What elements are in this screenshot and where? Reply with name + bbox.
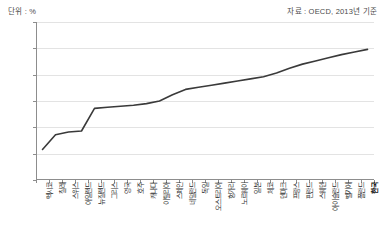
x-axis-label: 프랑스 [293, 182, 300, 199]
source-label: 자료 : OECD, 2013년 기준 [287, 5, 377, 16]
x-axis-label: 덴마크 [280, 182, 287, 199]
x-axis-label: 멕시코 [46, 182, 53, 199]
x-axis-label: 네덜란드 [189, 182, 196, 205]
x-axis-label: 호주 [137, 182, 144, 194]
unit-label: 단위 : % [8, 5, 36, 16]
data-series-line [36, 22, 374, 180]
x-axis-label: 아일랜드 [85, 182, 92, 205]
x-axis-label: 일본 [254, 182, 261, 194]
x-axis-label: 그리스 [111, 182, 118, 199]
x-axis-label: 아이슬란드 [332, 182, 339, 211]
x-axis-label: 캐나다 [150, 182, 157, 199]
chart-container: 단위 : % 자료 : OECD, 2013년 기준 0.05.010.015.… [0, 0, 385, 242]
x-axis-label: 핀란드 [306, 182, 313, 199]
x-axis-label: 스위스 [72, 182, 79, 199]
x-axis-label: 뉴질랜드 [98, 182, 105, 205]
x-axis-label: 오스트리아 [215, 182, 222, 211]
x-axis-label: 한국 [371, 182, 378, 194]
x-axis-label: 스웨덴 [319, 182, 326, 199]
x-axis-label: 독일 [202, 182, 209, 194]
x-axis-label: 이탈리아 [163, 182, 170, 205]
x-axis-label: 영국 [124, 182, 131, 194]
x-axis-label: 노르웨이 [241, 182, 248, 205]
x-axis-label: 벨기에 [345, 182, 352, 199]
x-axis-label: 체코 [267, 182, 274, 194]
x-axis-label: 폴란드 [358, 182, 365, 199]
x-axis-label: 스페인 [176, 182, 183, 199]
x-axis-label: 헝가리 [228, 182, 235, 199]
x-axis-labels: 멕시코칠레스위스아일랜드뉴질랜드그리스영국호주캐나다이탈리아스페인네덜란드독일오… [36, 182, 374, 242]
plot-area: 0.05.010.015.020.025.030.0 [36, 22, 374, 180]
x-axis-label: 칠레 [59, 182, 66, 194]
